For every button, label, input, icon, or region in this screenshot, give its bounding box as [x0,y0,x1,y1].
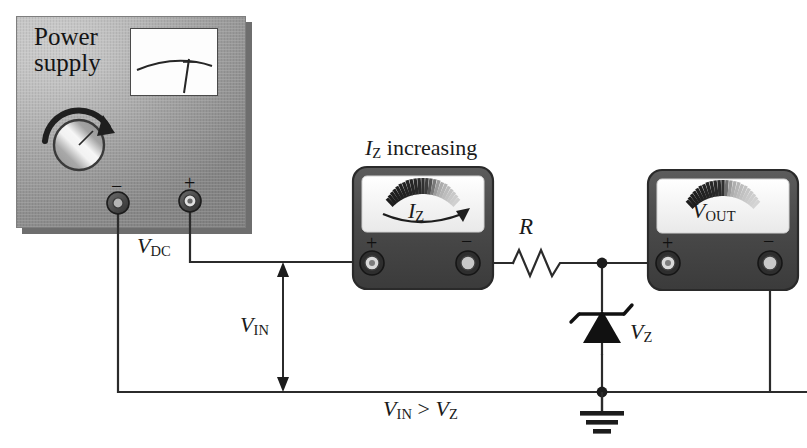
condition-rhs-symbol: V [435,396,448,421]
voltmeter-negative-terminal-label: − [763,231,774,252]
voltmeter-positive-terminal-label: + [662,233,673,254]
ammeter-caption-subscript: Z [372,145,381,161]
circuit-diagram-figure: Power supply [0,0,807,448]
ammeter-negative-terminal-label: − [461,231,472,252]
meter-needle [184,59,189,93]
condition-lhs-subscript: IN [396,406,412,422]
resistor-symbol: R [519,214,533,239]
vin-label: VIN [240,313,269,338]
condition-lhs-symbol: V [383,396,396,421]
voltmeter-face-subscript: OUT [705,208,735,224]
zener-subscript: Z [643,329,652,345]
ammeter-face-subscript: Z [415,208,424,224]
power-supply-positive-terminal-label: + [184,173,195,194]
condition-operator: > [412,396,435,421]
condition-label: VIN > VZ [383,397,458,422]
ammeter-caption: IZ increasing [365,136,477,161]
vdc-symbol: V [137,233,150,258]
zener-symbol: V [630,319,643,344]
condition-rhs-subscript: Z [449,406,458,422]
vdc-subscript: DC [150,243,170,259]
voltmeter-face-symbol: V [692,198,705,223]
zener-label: VZ [630,320,652,345]
ammeter-face-label: IZ [408,199,424,224]
ammeter-caption-text: increasing [381,135,477,160]
power-supply-negative-terminal-label: − [111,176,122,197]
resistor-label: R [519,215,533,239]
vin-symbol: V [240,312,253,337]
power-supply-details-layer [0,0,807,448]
voltmeter-face-label: VOUT [692,199,736,224]
power-supply-positive-terminal-center [187,198,192,203]
ammeter-positive-terminal-label: + [366,233,377,254]
vdc-label: VDC [137,234,171,259]
meter-scale-arc [137,61,212,70]
vin-subscript: IN [253,322,269,338]
power-supply-negative-terminal-post [113,198,123,208]
